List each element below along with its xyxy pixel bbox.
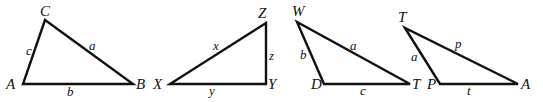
side-label: a xyxy=(350,38,357,53)
vertex-label: C xyxy=(40,3,51,19)
triangles-figure: C A B c a b Z X Y x z y W D T b a c xyxy=(0,0,543,102)
vertex-label: T xyxy=(398,9,408,25)
triangle-abc-outline xyxy=(23,20,133,84)
side-label: a xyxy=(89,38,96,53)
vertex-label: D xyxy=(310,76,322,92)
triangle-wdt-outline xyxy=(297,22,410,84)
triangle-xyz-outline xyxy=(170,23,266,84)
side-label: c xyxy=(360,83,366,98)
vertex-label: B xyxy=(136,76,145,92)
triangle-xyz: Z X Y x z y xyxy=(152,5,278,98)
side-label: z xyxy=(268,48,274,63)
side-label: b xyxy=(67,84,74,99)
vertex-label: W xyxy=(292,3,306,19)
vertex-label: Y xyxy=(268,76,278,92)
vertex-label: Z xyxy=(258,5,267,21)
side-label: t xyxy=(467,83,471,98)
triangles-svg: C A B c a b Z X Y x z y W D T b a c xyxy=(0,0,543,102)
vertex-label: A xyxy=(520,76,531,92)
triangle-abc: C A B c a b xyxy=(5,3,145,99)
side-label: p xyxy=(454,36,462,51)
side-label: b xyxy=(300,47,307,62)
triangle-tpa-outline xyxy=(405,28,518,84)
vertex-label: P xyxy=(426,76,436,92)
vertex-label: A xyxy=(5,76,16,92)
side-label: y xyxy=(207,83,215,98)
side-label: x xyxy=(212,38,219,53)
vertex-label: T xyxy=(412,76,422,92)
side-label: a xyxy=(411,49,418,64)
vertex-label: X xyxy=(152,76,163,92)
side-label: c xyxy=(26,43,32,58)
